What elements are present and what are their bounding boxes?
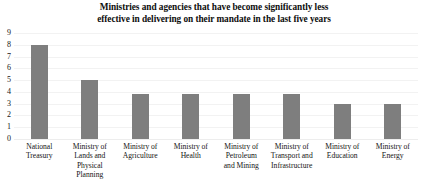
bar [283, 94, 300, 139]
bar [132, 94, 149, 139]
x-axis-label: Ministry ofPetroleumand Mining [216, 142, 267, 170]
x-axis-label: Ministry ofHealth [166, 142, 217, 161]
x-axis-label: Ministry ofEnergy [368, 142, 419, 161]
plot-area [14, 33, 418, 139]
y-axis: 9876543210 [0, 33, 14, 139]
x-axis-label: Ministry ofTransport andInfrastructure [267, 142, 318, 170]
y-tick-label-3: 3 [7, 100, 11, 108]
x-axis-label-line: Health [166, 151, 217, 160]
x-axis-label-line: Ministry of [65, 142, 116, 151]
x-axis-label-line: Petroleum [216, 151, 267, 160]
y-tick-label-2: 2 [7, 111, 11, 119]
chart-title: Ministries and agencies that have become… [44, 1, 384, 25]
x-axis-label-line: Ministry of [166, 142, 217, 151]
x-axis-label: NationalTreasury [14, 142, 65, 161]
x-axis-label-line: and Mining [216, 161, 267, 170]
x-axis-label-line: Ministry of [317, 142, 368, 151]
x-axis-label-line: Agriculture [115, 151, 166, 160]
bar [384, 104, 401, 139]
chart-title-line-2: effective in delivering on their mandate… [44, 13, 384, 25]
x-axis-label-line: Infrastructure [267, 161, 318, 170]
x-axis-label-line: Ministry of [115, 142, 166, 151]
x-axis-label-line: National [14, 142, 65, 151]
y-tick-label-0: 0 [7, 135, 11, 143]
x-axis-label-line: Physical Planning [65, 161, 116, 180]
bar [31, 45, 48, 139]
y-tick-label-8: 8 [7, 41, 11, 49]
x-axis-label-line: Energy [368, 151, 419, 160]
y-tick-label-7: 7 [7, 53, 11, 61]
x-axis-label: Ministry ofEducation [317, 142, 368, 161]
x-axis-label-line: Treasury [14, 151, 65, 160]
y-tick-label-4: 4 [7, 88, 11, 96]
y-tick-label-6: 6 [7, 64, 11, 72]
x-axis-label-line: Ministry of [368, 142, 419, 151]
x-axis-label-line: Ministry of [216, 142, 267, 151]
gridline-0 [14, 139, 418, 140]
x-axis-labels: NationalTreasuryMinistry ofLands andPhys… [14, 142, 418, 185]
y-tick-label-9: 9 [7, 29, 11, 37]
bar-series [14, 33, 418, 139]
bar [233, 94, 250, 139]
bar [182, 94, 199, 139]
chart-title-line-1: Ministries and agencies that have become… [44, 1, 384, 13]
y-tick-label-1: 1 [7, 123, 11, 131]
x-axis-label: Ministry ofAgriculture [115, 142, 166, 161]
x-axis-label-line: Lands and [65, 151, 116, 160]
bar [81, 80, 98, 139]
y-tick-label-5: 5 [7, 76, 11, 84]
x-axis-label-line: Transport and [267, 151, 318, 160]
x-axis-label-line: Ministry of [267, 142, 318, 151]
x-axis-label: Ministry ofLands andPhysical Planning [65, 142, 116, 179]
bar [334, 104, 351, 139]
bar-chart: Ministries and agencies that have become… [0, 0, 423, 185]
x-axis-label-line: Education [317, 151, 368, 160]
